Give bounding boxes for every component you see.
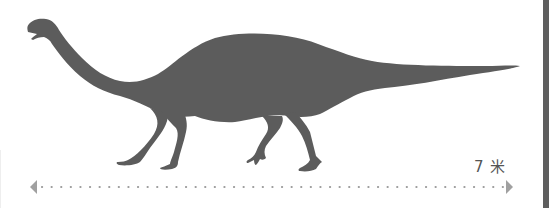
figure-canvas: 7 米 [0, 0, 549, 208]
scale-length-label: 7 米 [474, 155, 506, 176]
left-arrow-icon [30, 180, 37, 194]
right-arrow-icon [506, 180, 513, 194]
scale-bar [0, 0, 549, 208]
right-frame-bar [543, 0, 549, 208]
